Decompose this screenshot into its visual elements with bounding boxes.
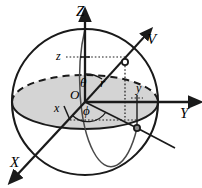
radius-label-r: r [100, 76, 105, 89]
azimuth-angle-label-phi: ϕ [83, 104, 90, 117]
spherical-coordinate-diagram: Z Y X V O r θ ϕ x y z [0, 0, 202, 188]
origin-label: O [70, 88, 79, 101]
point-on-sphere-marker [122, 59, 128, 65]
diagram-canvas [0, 0, 202, 188]
coordinate-label-x: x [54, 102, 59, 114]
coordinate-label-y: y [136, 82, 141, 94]
vector-label-v: V [147, 32, 156, 47]
axis-label-z: Z [76, 4, 84, 19]
axis-label-y: Y [180, 106, 188, 121]
axis-label-x: X [10, 155, 19, 170]
point-on-equator-marker [134, 125, 140, 131]
polar-angle-label-theta: θ [80, 76, 86, 89]
coordinate-label-z: z [56, 50, 61, 62]
